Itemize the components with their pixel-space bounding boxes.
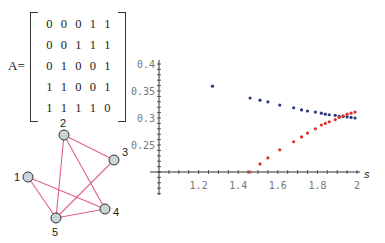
x-axis-label: s [364,168,370,180]
y-tick-label: 0.25 [131,140,155,151]
data-point-red [349,112,352,115]
data-point-red [353,110,356,113]
x-tick-label: 1.6 [269,180,287,191]
graph-node [109,155,119,165]
figure-canvas: 12345 1.21.41.61.820.250.30.350.4s [0,0,385,243]
data-point-blue [211,85,214,88]
graph-node [23,172,33,182]
x-tick-label: 1.4 [229,180,247,191]
y-tick-label: 0.35 [131,86,155,97]
node-label: 5 [52,226,58,238]
data-point-red [306,132,309,135]
data-point-red [328,120,331,123]
graph-edge [56,135,64,218]
data-point-blue [320,112,323,115]
node-label: 4 [113,206,119,218]
data-point-blue [324,113,327,116]
data-point-blue [292,106,295,109]
data-point-red [342,114,345,117]
graph-node [100,204,110,214]
data-point-red [300,135,303,138]
x-tick-label: 1.8 [308,180,326,191]
y-tick-label: 0.3 [137,113,155,124]
x-tick-label: 2 [354,180,360,191]
node-label: 2 [60,117,66,129]
data-point-blue [258,99,261,102]
graph-node [59,130,69,140]
data-point-red [266,156,269,159]
data-point-blue [349,116,352,119]
data-point-blue [278,103,281,106]
node-label: 1 [14,171,20,183]
data-point-blue [314,110,317,113]
data-point-red [346,113,349,116]
x-tick-label: 1.2 [190,180,208,191]
y-tick-label: 0.4 [137,59,155,70]
scatter-plot: 1.21.41.61.820.250.30.350.4s [131,59,370,195]
data-point-red [278,148,281,151]
data-point-blue [328,113,331,116]
data-point-blue [300,108,303,111]
data-point-blue [334,114,337,117]
graph-node [51,213,61,223]
data-point-blue [353,116,356,119]
data-point-red [314,127,317,130]
data-point-red [292,140,295,143]
data-point-blue [266,100,269,103]
data-point-red [320,123,323,126]
node-label: 3 [122,146,128,158]
data-point-red [258,162,261,165]
data-point-red [338,116,341,119]
data-point-red [334,118,337,121]
graph-edge [64,135,105,209]
data-point-red [248,170,251,173]
data-point-blue [306,109,309,112]
network-graph: 12345 [14,117,128,238]
data-point-blue [248,96,251,99]
data-point-red [324,122,327,125]
